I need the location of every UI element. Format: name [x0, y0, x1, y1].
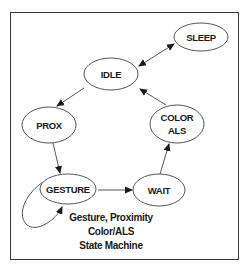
node-gesture-label: GESTURE [46, 184, 90, 195]
node-sleep: SLEEP [174, 23, 228, 51]
node-color-als-label-line2: ALS [168, 125, 186, 136]
edge-idle-prox [57, 88, 84, 106]
edge-prox-gesture [53, 143, 60, 173]
edge-wait-color-als [160, 144, 169, 174]
node-prox: PROX [22, 107, 76, 143]
edge-color-als-idle [140, 89, 166, 105]
node-wait-label: WAIT [148, 185, 171, 196]
edge-idle-sleep [139, 44, 174, 66]
caption-line-2: Color/ALS [50, 225, 172, 239]
node-prox-label: PROX [36, 120, 63, 131]
caption-line-3: State Machine [50, 239, 172, 253]
node-idle-label: IDLE [101, 69, 121, 80]
node-sleep-label: SLEEP [186, 32, 217, 43]
node-color-als: COLOR ALS [150, 105, 204, 143]
node-gesture: GESTURE [40, 174, 96, 204]
caption-line-1: Gesture, Proximity [50, 211, 172, 225]
node-color-als-label-line1: COLOR [161, 112, 194, 123]
node-wait: WAIT [133, 174, 185, 206]
node-idle: IDLE [84, 58, 138, 90]
